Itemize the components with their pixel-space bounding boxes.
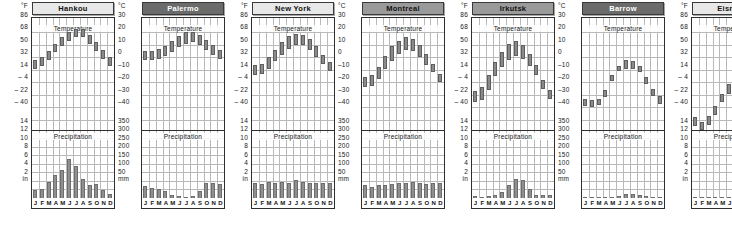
panel-title-label: Hankou bbox=[58, 4, 87, 13]
month-axis: JFMAMJJASOND bbox=[142, 198, 224, 208]
month-tick-label: O bbox=[313, 198, 320, 208]
gridline-horizontal bbox=[362, 120, 444, 121]
temp-tick: – 4 bbox=[445, 73, 471, 80]
temperature-bar bbox=[108, 57, 112, 66]
month-axis: JFMAMJJASOND bbox=[692, 198, 732, 208]
precip-tick: 4 bbox=[225, 159, 251, 166]
month-axis: JFMAMJJASOND bbox=[32, 198, 114, 208]
gridline-horizontal bbox=[692, 57, 732, 58]
precip-tick: 4 bbox=[665, 159, 691, 166]
temperature-bar bbox=[273, 50, 277, 61]
temp-tick: 14 bbox=[225, 61, 251, 68]
gridline-horizontal bbox=[692, 147, 732, 148]
month-tick-label: J bbox=[73, 198, 80, 208]
gridline-horizontal bbox=[582, 164, 664, 165]
precip-tick: 150 bbox=[555, 151, 581, 158]
panel-title-irkutsk[interactable]: Irkutsk bbox=[472, 2, 554, 15]
temperature-bar bbox=[383, 56, 387, 69]
precipitation-section-label: Precipitation bbox=[32, 133, 114, 140]
chart-box-2: TemperaturePrecipitationJFMAMJJASOND bbox=[251, 17, 335, 209]
month-tick-label: N bbox=[320, 198, 327, 208]
month-tick-label: M bbox=[266, 198, 273, 208]
month-tick-label: M bbox=[376, 198, 383, 208]
precip-tick: 8 bbox=[445, 142, 471, 149]
precipitation-bar bbox=[260, 184, 264, 198]
precip-tick: 10 bbox=[5, 134, 31, 141]
chart-box-4: TemperaturePrecipitationJFMAMJJASOND bbox=[471, 17, 555, 209]
panel-title-barrow[interactable]: Barrow bbox=[582, 2, 664, 15]
precipitation-bar bbox=[321, 183, 325, 198]
gridline-horizontal bbox=[692, 107, 732, 108]
temp-tick: 14 bbox=[445, 61, 471, 68]
precip-tick: 300 bbox=[335, 125, 361, 132]
panel-title-label: Eismitte bbox=[717, 4, 732, 13]
month-tick-label: J bbox=[183, 198, 190, 208]
month-tick-label: A bbox=[520, 198, 527, 208]
temperature-bar bbox=[363, 77, 367, 87]
temperature-bar bbox=[143, 51, 147, 60]
month-tick-label: A bbox=[272, 198, 279, 208]
gridline-horizontal bbox=[692, 172, 732, 173]
month-tick-label: J bbox=[293, 198, 300, 208]
month-tick-label: D bbox=[437, 198, 444, 208]
temperature-bar bbox=[198, 35, 202, 45]
temp-unit-label: °F bbox=[665, 2, 691, 9]
month-tick-label: A bbox=[602, 198, 609, 208]
gridline-horizontal bbox=[472, 172, 554, 173]
temp-tick: 50 bbox=[445, 36, 471, 43]
month-tick-label: S bbox=[197, 198, 204, 208]
temperature-bar bbox=[473, 91, 477, 102]
axis-labels-right-2: °C3020100–10–20–30–40mm35030025020015010… bbox=[335, 0, 361, 212]
gridline-horizontal bbox=[32, 45, 114, 46]
precipitation-bar bbox=[514, 179, 518, 198]
precip-unit-label: mm bbox=[115, 175, 141, 182]
month-tick-label: J bbox=[396, 198, 403, 208]
temperature-bar bbox=[514, 41, 518, 56]
temp-tick: 86 bbox=[665, 11, 691, 18]
month-tick-label: M bbox=[169, 198, 176, 208]
precip-tick: 6 bbox=[5, 151, 31, 158]
temp-tick: 30 bbox=[555, 11, 581, 18]
precip-unit-label: in bbox=[225, 175, 251, 182]
precip-tick: 10 bbox=[445, 134, 471, 141]
precipitation-section-label: Precipitation bbox=[692, 133, 732, 140]
chart-box-1: TemperaturePrecipitationJFMAMJJASOND bbox=[141, 17, 225, 209]
temp-unit-label: °F bbox=[5, 2, 31, 9]
month-tick-label: O bbox=[533, 198, 540, 208]
gridline-horizontal bbox=[252, 155, 334, 156]
panel-title-new-york[interactable]: New York bbox=[252, 2, 334, 15]
precip-tick: 12 bbox=[225, 125, 251, 132]
precip-tick: 50 bbox=[115, 168, 141, 175]
panel-title-palermo[interactable]: Palermo bbox=[142, 2, 224, 15]
gridline-horizontal bbox=[362, 82, 444, 83]
gridline-horizontal bbox=[472, 70, 554, 71]
temperature-bar bbox=[590, 100, 594, 108]
gridline-horizontal bbox=[252, 172, 334, 173]
temp-tick: – 22 bbox=[445, 86, 471, 93]
temperature-bar bbox=[267, 57, 271, 68]
gridline-horizontal bbox=[582, 172, 664, 173]
temp-tick: –10 bbox=[555, 61, 581, 68]
panel-title-eismitte[interactable]: Eismitte bbox=[692, 2, 732, 15]
gridline-horizontal bbox=[142, 107, 224, 108]
precip-tick: 4 bbox=[445, 159, 471, 166]
temperature-bar bbox=[404, 37, 408, 50]
gridline-horizontal bbox=[472, 32, 554, 33]
gridline-horizontal bbox=[692, 95, 732, 96]
temperature-bar bbox=[74, 29, 78, 38]
temp-tick: – 22 bbox=[225, 86, 251, 93]
precip-unit-label: in bbox=[445, 175, 471, 182]
month-tick-label: M bbox=[706, 198, 713, 208]
section-divider bbox=[692, 130, 732, 131]
temperature-bar bbox=[438, 74, 442, 83]
gridline-horizontal bbox=[32, 164, 114, 165]
month-tick-label: J bbox=[286, 198, 293, 208]
temperature-bar bbox=[727, 84, 731, 94]
precipitation-bar bbox=[198, 191, 202, 198]
month-tick-label: M bbox=[279, 198, 286, 208]
temp-tick: 32 bbox=[665, 48, 691, 55]
temperature-bar bbox=[218, 50, 222, 59]
panel-title-hankou[interactable]: Hankou bbox=[32, 2, 114, 15]
temperature-bar bbox=[720, 94, 724, 103]
panel-title-montreal[interactable]: Montreal bbox=[362, 2, 444, 15]
